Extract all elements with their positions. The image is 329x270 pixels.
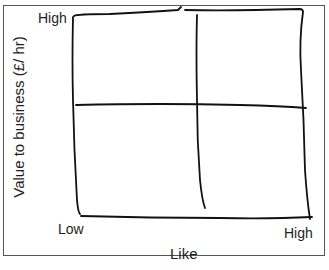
matrix-right-edge bbox=[300, 12, 310, 219]
x-axis-high-label: High bbox=[284, 226, 313, 240]
y-axis-high-label: High bbox=[38, 11, 67, 25]
matrix-sketch bbox=[0, 0, 329, 270]
y-axis-line bbox=[73, 17, 81, 214]
x-axis-low-label: Low bbox=[58, 222, 84, 236]
horizontal-divider bbox=[76, 104, 306, 108]
x-axis-line bbox=[81, 216, 312, 218]
x-axis-title: Like bbox=[170, 246, 198, 261]
y-axis-title: Value to business (£/ hr) bbox=[11, 36, 26, 197]
vertical-divider bbox=[197, 15, 206, 208]
matrix-top-edge bbox=[74, 7, 303, 16]
